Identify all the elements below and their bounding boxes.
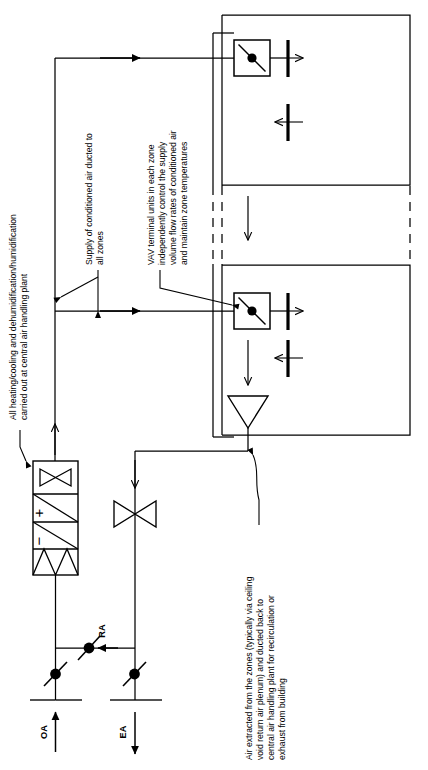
diagram-canvas: + − [0, 0, 428, 770]
zone-2-return-grille [275, 340, 303, 377]
extract-note-line-2: void return air plenum) and ducted back … [255, 599, 265, 760]
plant-note-leader [20, 430, 26, 461]
extract-fan [228, 396, 268, 451]
zone-1-return-grille [275, 104, 303, 141]
exhaust-air-label: EA [118, 725, 128, 738]
zone-divider-dashed [222, 186, 410, 264]
vav-note-line-1: VAV terminal units in each zone [146, 144, 156, 265]
vav-note-line-4: and maintain zone temperatures [179, 142, 189, 265]
supply-note-line-1: Supply of conditioned air ducted to [84, 133, 94, 265]
vav-note-leader [160, 270, 232, 305]
extract-note-line-3: central air handling plant for recircula… [266, 595, 276, 760]
outside-air-duct [30, 648, 82, 752]
extract-duct [135, 451, 248, 648]
plant-note-line-1: All heating/cooling and dehumidification… [8, 214, 18, 420]
plant-note-line-2: carried out at central air handling plan… [19, 273, 29, 420]
zone-1-supply-grille [288, 40, 303, 77]
supply-note-line-2: all zones [95, 231, 105, 265]
extract-note-leader [253, 455, 259, 525]
extract-note-line-1: Air extracted from the zones (typically … [244, 576, 254, 760]
outside-air-label: OA [39, 725, 49, 739]
cooling-coil-symbol: − [30, 536, 47, 545]
vav-note-line-2: independently control the supply [157, 141, 167, 265]
vav-note-line-3: volume flow rates of conditioned air [168, 130, 178, 265]
extract-note-line-4: exhaust from building [277, 678, 287, 760]
zone-2-vav-terminal-unit [234, 293, 288, 329]
zone-2-supply-grille [288, 293, 303, 330]
supply-note-leader [61, 270, 98, 311]
heating-coil-symbol: + [30, 508, 47, 517]
vav-system-diagram: + − [0, 0, 428, 770]
return-air-label: RA [97, 624, 107, 638]
supply-duct-trunk [213, 33, 234, 437]
zone-1-vav-terminal-unit [234, 40, 288, 76]
